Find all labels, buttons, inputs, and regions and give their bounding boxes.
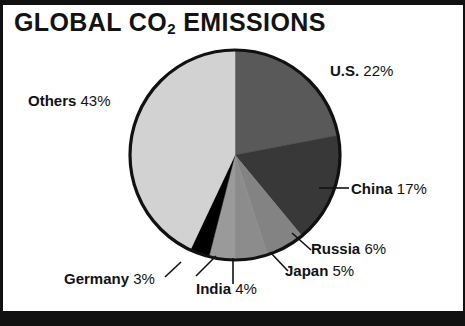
slice-percent-germany: 3% <box>133 270 155 287</box>
leader-line-germany-lower <box>196 256 216 276</box>
slice-name-china: China <box>351 180 393 197</box>
slice-percent-china: 17% <box>397 180 427 197</box>
slice-percent-others: 43% <box>81 92 111 109</box>
slice-label-russia: Russia 6% <box>311 240 386 257</box>
chart-figure: GLOBAL CO2 EMISSIONS U.S. 22% China 17% … <box>0 0 465 326</box>
slice-percent-us: 22% <box>363 62 393 79</box>
slice-label-india: India 4% <box>196 280 257 297</box>
slice-label-others: Others 43% <box>28 92 111 109</box>
slice-name-japan: Japan <box>285 262 328 279</box>
leader-line-germany <box>165 262 181 277</box>
slice-percent-russia: 6% <box>364 240 386 257</box>
slice-name-us: U.S. <box>330 62 359 79</box>
slice-percent-japan: 5% <box>333 262 355 279</box>
slice-name-russia: Russia <box>311 240 360 257</box>
slice-name-others: Others <box>28 92 76 109</box>
slice-label-us: U.S. 22% <box>330 62 393 79</box>
slice-percent-india: 4% <box>235 280 257 297</box>
slice-label-germany: Germany 3% <box>64 270 155 287</box>
slice-name-germany: Germany <box>64 270 129 287</box>
slice-label-japan: Japan 5% <box>285 262 354 279</box>
slice-label-china: China 17% <box>351 180 427 197</box>
slice-name-india: India <box>196 280 231 297</box>
